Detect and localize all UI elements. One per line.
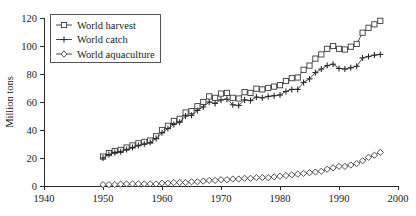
marker-square [325, 46, 330, 51]
marker-plus [283, 89, 289, 95]
marker-diamond [271, 174, 277, 180]
y-tick-label: 60 [27, 97, 38, 108]
marker-diamond [377, 149, 383, 155]
y-tick-label: 80 [27, 69, 38, 80]
marker-square [319, 52, 324, 57]
marker-diamond [365, 154, 371, 160]
y-axis-title: Million tons [4, 76, 15, 128]
marker-diamond [354, 161, 360, 167]
x-tick-label: 2000 [388, 193, 409, 204]
series-1 [100, 51, 383, 161]
marker-plus [371, 52, 377, 58]
marker-square [248, 90, 253, 95]
marker-square [236, 96, 241, 101]
marker-square [289, 76, 294, 81]
marker-diamond [236, 176, 242, 182]
marker-plus [318, 66, 324, 72]
marker-square [277, 83, 282, 88]
marker-square [207, 94, 212, 99]
legend-item-label: World aquaculture [77, 49, 155, 60]
legend-item-label: World harvest [77, 20, 136, 31]
marker-diamond [212, 177, 218, 183]
marker-diamond [348, 162, 354, 168]
marker-plus [265, 93, 271, 99]
x-tick-label: 1970 [211, 193, 232, 204]
marker-square [301, 67, 306, 72]
marker-square [283, 78, 288, 83]
series-2 [100, 149, 384, 187]
marker-diamond [342, 163, 348, 169]
marker-plus [289, 86, 295, 92]
marker-square [201, 99, 206, 104]
marker-plus [271, 93, 277, 99]
marker-square [313, 56, 318, 61]
marker-diamond [360, 158, 366, 164]
marker-square [366, 25, 371, 30]
marker-plus [330, 61, 336, 67]
marker-square [295, 75, 300, 80]
marker-square [342, 47, 347, 52]
y-tick-label: 100 [21, 41, 37, 52]
marker-plus [342, 66, 348, 72]
x-tick-label: 1940 [34, 193, 55, 204]
marker-diamond [165, 180, 171, 186]
marker-square [224, 90, 229, 95]
marker-square [372, 22, 377, 27]
marker-square [230, 95, 235, 100]
marker-diamond [265, 175, 271, 181]
y-tick-label: 120 [21, 13, 37, 24]
marker-square [254, 86, 259, 91]
marker-diamond [330, 165, 336, 171]
marker-diamond [318, 168, 324, 174]
marker-diamond [312, 169, 318, 175]
marker-square [272, 84, 277, 89]
marker-diamond [277, 173, 283, 179]
marker-square [331, 43, 336, 48]
marker-plus [253, 94, 259, 100]
x-tick-label: 1980 [270, 193, 291, 204]
marker-diamond [112, 182, 118, 188]
chart-container: 0204060801001201940195019601970198019902… [0, 0, 416, 216]
marker-plus [277, 92, 283, 98]
marker-diamond [371, 152, 377, 158]
marker-square [218, 91, 223, 96]
marker-plus [336, 65, 342, 71]
marker-square [378, 18, 383, 23]
marker-diamond [301, 170, 307, 176]
marker-plus [212, 100, 218, 106]
marker-square [354, 41, 359, 46]
marker-diamond [306, 170, 312, 176]
marker-square [213, 95, 218, 100]
marker-square [336, 46, 341, 51]
marker-square [360, 30, 365, 35]
y-tick-label: 20 [27, 153, 38, 164]
marker-plus [248, 98, 254, 104]
line-chart: 0204060801001201940195019601970198019902… [0, 0, 416, 216]
y-tick-label: 0 [32, 181, 37, 192]
marker-diamond [200, 178, 206, 184]
x-tick-label: 1990 [329, 193, 350, 204]
marker-plus [348, 65, 354, 71]
marker-plus [360, 55, 366, 61]
marker-diamond [289, 172, 295, 178]
marker-diamond [194, 179, 200, 185]
marker-diamond [224, 177, 230, 183]
legend-item-label: World catch [77, 34, 129, 45]
y-tick-label: 40 [27, 125, 38, 136]
marker-diamond [183, 179, 189, 185]
marker-square [242, 90, 247, 95]
marker-square [266, 85, 271, 90]
x-tick-label: 1960 [152, 193, 173, 204]
marker-square [307, 63, 312, 68]
marker-plus [354, 63, 360, 69]
marker-plus [366, 54, 372, 60]
marker-plus [259, 95, 265, 101]
marker-plus [377, 51, 383, 57]
marker-diamond [295, 171, 301, 177]
marker-plus [324, 63, 330, 69]
chart-legend: World harvestWorld catchWorld aquacultur… [50, 14, 160, 62]
marker-diamond [324, 166, 330, 172]
marker-diamond [283, 172, 289, 178]
marker-square [348, 44, 353, 49]
marker-plus [218, 97, 224, 103]
